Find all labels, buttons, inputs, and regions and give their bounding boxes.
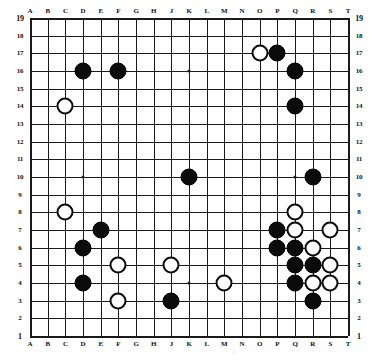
column-label-top: F [112, 8, 124, 15]
row-label-right: 19 [352, 15, 366, 23]
black-stone[interactable] [287, 98, 304, 115]
black-stone[interactable] [287, 257, 304, 274]
go-board[interactable]: AABBCCDDEEFFGGHHJJKKLLMMNNOOPPQQRRSSTT19… [0, 0, 378, 363]
black-stone[interactable] [181, 169, 198, 186]
black-stone[interactable] [92, 222, 109, 239]
white-stone[interactable] [251, 45, 268, 62]
column-label-top: C [59, 8, 71, 15]
row-label-right: 2 [352, 315, 366, 322]
black-stone[interactable] [269, 239, 286, 256]
white-stone[interactable] [322, 257, 339, 274]
black-stone[interactable] [75, 63, 92, 80]
row-label-right: 5 [352, 262, 366, 269]
column-label-bottom: S [324, 341, 336, 348]
grid-line-horizontal [30, 301, 348, 302]
white-stone[interactable] [322, 222, 339, 239]
column-label-top: K [183, 8, 195, 15]
grid-line-vertical [242, 18, 243, 336]
row-label-left: 9 [13, 191, 27, 198]
column-label-top: P [271, 8, 283, 15]
black-stone[interactable] [287, 275, 304, 292]
row-label-right: 8 [352, 209, 366, 216]
row-label-left: 3 [13, 297, 27, 304]
black-stone[interactable] [110, 63, 127, 80]
row-label-left: 15 [13, 85, 27, 92]
grid-line-horizontal [30, 318, 348, 319]
row-label-left: 11 [13, 156, 27, 163]
white-stone[interactable] [110, 257, 127, 274]
black-stone[interactable] [287, 239, 304, 256]
row-label-left: 14 [13, 103, 27, 110]
white-stone[interactable] [57, 98, 74, 115]
row-label-left: 13 [13, 121, 27, 128]
column-label-top: Q [289, 8, 301, 15]
row-label-right: 9 [352, 191, 366, 198]
column-label-top: L [201, 8, 213, 15]
black-stone[interactable] [163, 292, 180, 309]
column-label-top: S [324, 8, 336, 15]
grid-line-vertical [207, 18, 208, 336]
row-label-left: 7 [13, 227, 27, 234]
grid-line-vertical [277, 18, 278, 336]
white-stone[interactable] [163, 257, 180, 274]
column-label-bottom: K [183, 341, 195, 348]
column-label-bottom: D [77, 341, 89, 348]
column-label-top: H [148, 8, 160, 15]
star-point [188, 282, 191, 285]
row-label-left: 1 [13, 333, 27, 341]
black-stone[interactable] [75, 275, 92, 292]
column-label-bottom: N [236, 341, 248, 348]
white-stone[interactable] [216, 275, 233, 292]
row-label-right: 14 [352, 103, 366, 110]
grid-line-vertical [260, 18, 261, 336]
row-label-left: 12 [13, 138, 27, 145]
column-label-top: O [254, 8, 266, 15]
grid-line-vertical [348, 18, 350, 336]
row-label-right: 17 [352, 50, 366, 57]
row-label-right: 1 [352, 333, 366, 341]
column-label-bottom: F [112, 341, 124, 348]
column-label-bottom: O [254, 341, 266, 348]
white-stone[interactable] [304, 239, 321, 256]
black-stone[interactable] [75, 239, 92, 256]
row-label-right: 12 [352, 138, 366, 145]
row-label-left: 2 [13, 315, 27, 322]
column-label-bottom: L [201, 341, 213, 348]
row-label-left: 19 [13, 15, 27, 23]
white-stone[interactable] [322, 275, 339, 292]
black-stone[interactable] [304, 169, 321, 186]
column-label-top: J [165, 8, 177, 15]
grid-line-horizontal [30, 195, 348, 196]
column-label-top: D [77, 8, 89, 15]
black-stone[interactable] [269, 45, 286, 62]
white-stone[interactable] [57, 204, 74, 221]
row-label-right: 15 [352, 85, 366, 92]
black-stone[interactable] [269, 222, 286, 239]
column-label-bottom: R [307, 341, 319, 348]
column-label-top: R [307, 8, 319, 15]
go-grid[interactable] [30, 18, 348, 336]
column-label-top: B [42, 8, 54, 15]
column-label-bottom: J [165, 341, 177, 348]
column-label-top: G [130, 8, 142, 15]
black-stone[interactable] [287, 63, 304, 80]
white-stone[interactable] [287, 204, 304, 221]
row-label-right: 18 [352, 32, 366, 39]
row-label-left: 17 [13, 50, 27, 57]
white-stone[interactable] [110, 292, 127, 309]
row-label-right: 7 [352, 227, 366, 234]
column-label-bottom: B [42, 341, 54, 348]
row-label-left: 10 [13, 174, 27, 181]
column-label-top: E [95, 8, 107, 15]
row-label-right: 6 [352, 244, 366, 251]
column-label-top: T [342, 8, 354, 15]
row-label-left: 4 [13, 280, 27, 287]
row-label-right: 13 [352, 121, 366, 128]
column-label-bottom: C [59, 341, 71, 348]
star-point [188, 70, 191, 73]
black-stone[interactable] [304, 292, 321, 309]
black-stone[interactable] [304, 257, 321, 274]
white-stone[interactable] [304, 275, 321, 292]
white-stone[interactable] [287, 222, 304, 239]
row-label-left: 5 [13, 262, 27, 269]
